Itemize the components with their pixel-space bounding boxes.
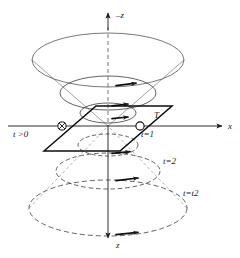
label-t-equals-2: t=2 — [163, 156, 177, 166]
light-cone-diagram: –z z x t >0 T t=1 t=2 t=t2 — [0, 0, 240, 258]
axis-label-x: x — [227, 121, 232, 131]
axis-label-minus-z: –z — [115, 10, 125, 20]
label-t-equals-t2: t=t2 — [183, 188, 199, 198]
axis-label-z: z — [115, 240, 120, 250]
label-t-equals-1: t=1 — [141, 129, 154, 139]
label-t-positive: t >0 — [13, 129, 29, 139]
crossed-circle-marker — [58, 122, 66, 130]
label-plane-T: T — [154, 110, 160, 120]
figure-container: –z z x t >0 T t=1 t=2 t=t2 — [0, 0, 240, 258]
